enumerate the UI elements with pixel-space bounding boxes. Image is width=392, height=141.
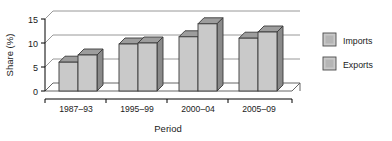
legend: Imports Exports bbox=[323, 33, 373, 70]
y-axis-title: Share (%) bbox=[4, 34, 15, 77]
bar-side-face bbox=[277, 26, 283, 91]
x-axis-title: Period bbox=[154, 123, 181, 134]
y-tick-label-5: 5 bbox=[33, 63, 38, 73]
y-tick-label-0: 0 bbox=[33, 87, 38, 97]
bar-front-face bbox=[239, 38, 258, 91]
grouped-3d-bar-chart: 15 10 5 0 Share (%) bbox=[0, 0, 392, 141]
bar-exports-1995-99 bbox=[138, 37, 163, 91]
x-tick-label-2005-09: 2005–09 bbox=[242, 104, 276, 114]
legend-swatch-exports-fill bbox=[326, 60, 334, 68]
bar-exports-2000-04 bbox=[198, 18, 223, 91]
bar-front-face bbox=[258, 32, 277, 91]
bar-group-1995-99 bbox=[119, 37, 163, 91]
bar-exports-2005-09 bbox=[258, 26, 283, 91]
legend-item-exports[interactable]: Exports bbox=[323, 57, 373, 70]
x-tick-label-1995-99: 1995–99 bbox=[120, 104, 154, 114]
floor-corner-edge bbox=[292, 83, 300, 91]
y-tick-label-15: 15 bbox=[28, 15, 38, 25]
bar-exports-1987-93 bbox=[78, 49, 103, 91]
legend-label-imports: Imports bbox=[343, 36, 373, 46]
bar-group-1987-93 bbox=[59, 49, 103, 91]
y-tick-label-10: 10 bbox=[28, 39, 38, 49]
bar-group-2005-09 bbox=[239, 26, 283, 91]
legend-label-exports: Exports bbox=[343, 60, 373, 70]
bar-front-face bbox=[138, 43, 157, 91]
legend-swatch-imports-fill bbox=[326, 36, 334, 44]
bar-front-face bbox=[198, 24, 217, 91]
chart-container: 15 10 5 0 Share (%) bbox=[0, 0, 392, 141]
x-axis: 1987–93 1995–99 2000–04 2005–09 Period bbox=[45, 99, 292, 134]
bar-group-2000-04 bbox=[179, 18, 223, 91]
x-tick-label-1987-93: 1987–93 bbox=[59, 104, 93, 114]
bar-front-face bbox=[119, 44, 138, 91]
bar-front-face bbox=[78, 55, 97, 91]
y-axis: 15 10 5 0 Share (%) bbox=[4, 15, 45, 97]
bar-side-face bbox=[157, 37, 163, 91]
x-tick-label-2000-04: 2000–04 bbox=[181, 104, 215, 114]
bar-side-face bbox=[97, 49, 103, 91]
legend-item-imports[interactable]: Imports bbox=[323, 33, 373, 46]
grid-line-15 bbox=[45, 11, 300, 19]
bar-front-face bbox=[59, 62, 78, 91]
bar-front-face bbox=[179, 37, 198, 91]
bar-side-face bbox=[217, 18, 223, 91]
